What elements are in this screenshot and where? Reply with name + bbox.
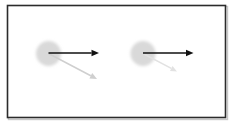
diagram-canvas — [0, 0, 233, 128]
vector-diagram — [0, 0, 233, 128]
